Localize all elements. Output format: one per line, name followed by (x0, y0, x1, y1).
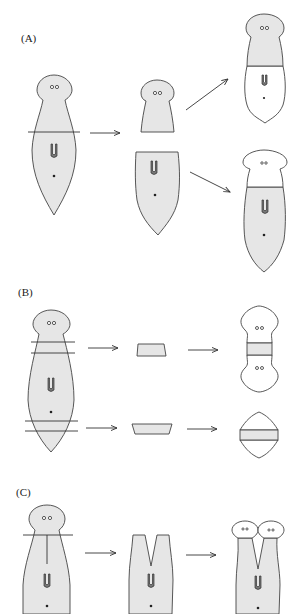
arrow (190, 172, 230, 192)
panel-label-a: (A) (21, 32, 37, 45)
panel-b-original-worm (25, 310, 78, 452)
panel-c-original-worm (23, 505, 73, 614)
panel-b-anterior-slice (137, 344, 166, 356)
panel-b-posterior-slice (132, 424, 172, 434)
panel-c-split-fragment (129, 535, 173, 614)
planarian-regeneration-diagram: (A) (B) (0, 0, 290, 614)
panel-label-b: (B) (18, 286, 33, 299)
panel-c-two-headed-worm (232, 521, 284, 614)
panel-b-two-headed-worm (241, 306, 278, 392)
panel-a-tail-fragment (135, 152, 179, 235)
panel-a-regenerated-tail-worm (245, 14, 286, 123)
panel-a-original-worm (28, 75, 80, 215)
panel-label-c: (C) (16, 486, 31, 499)
arrow (186, 79, 228, 110)
panel-b-two-tailed-worm (240, 412, 278, 458)
panel-a-head-fragment (141, 80, 174, 132)
panel-a-regenerated-head-worm (243, 150, 287, 272)
